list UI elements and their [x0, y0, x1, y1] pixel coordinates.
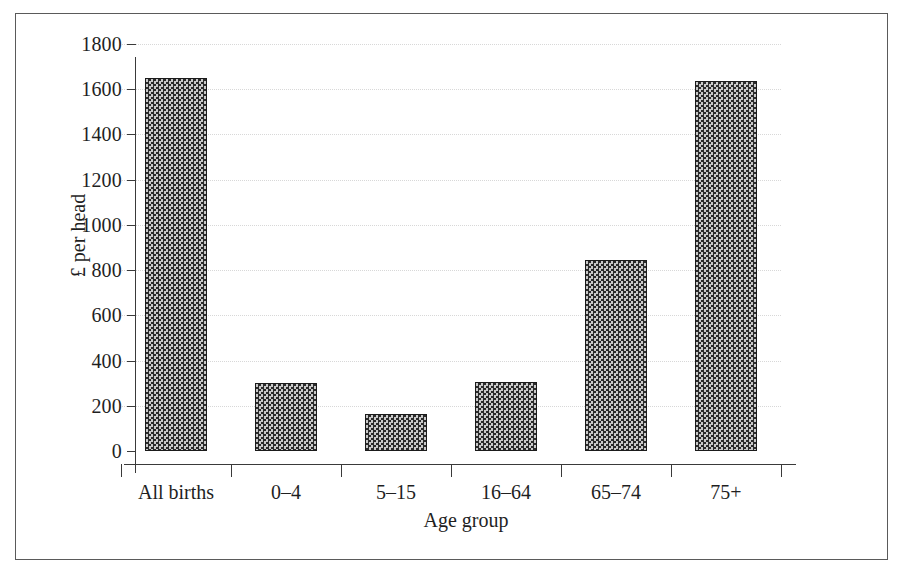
x-axis-tick-mark: [231, 464, 232, 477]
y-axis-title: £ per head: [67, 136, 90, 336]
y-axis-tick-label: 0: [58, 441, 122, 461]
x-axis-title: Age group: [136, 509, 796, 532]
y-axis-tick-label: 200: [58, 396, 122, 416]
figure-frame: 020040060080010001200140016001800 £ per …: [15, 13, 888, 560]
bar: [695, 81, 757, 451]
y-axis-tick-mark: [127, 451, 136, 452]
x-axis-tick-label: 75+: [636, 480, 816, 504]
bar: [255, 383, 317, 451]
x-axis-tick-mark: [341, 464, 342, 477]
bar: [585, 260, 647, 451]
y-axis-tick-label: 1800: [58, 34, 122, 54]
x-axis-tick-mark: [121, 464, 122, 477]
plot-area: [121, 44, 781, 451]
x-axis-tick-mark: [451, 464, 452, 477]
y-axis-tick-label: 400: [58, 351, 122, 371]
bar: [475, 382, 537, 451]
figure: 020040060080010001200140016001800 £ per …: [0, 0, 897, 570]
x-axis-tick-mark: [561, 464, 562, 477]
y-axis-tick-label: 1600: [58, 79, 122, 99]
x-axis-tick-mark: [781, 464, 782, 477]
x-axis-line: [124, 464, 796, 465]
x-axis-tick-mark: [671, 464, 672, 477]
bar: [365, 414, 427, 451]
bar: [145, 78, 207, 451]
